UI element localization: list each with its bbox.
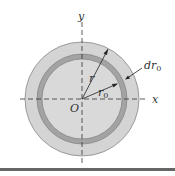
dr0-label: dr0 (144, 59, 161, 73)
y-axis-label: y (77, 10, 85, 23)
annulus-diagram: y x O r r0 dr0 (0, 0, 175, 176)
bottom-rule (0, 168, 175, 171)
origin-label: O (70, 102, 79, 115)
x-axis-label: x (152, 93, 159, 106)
radius-r-label: r (89, 72, 95, 85)
